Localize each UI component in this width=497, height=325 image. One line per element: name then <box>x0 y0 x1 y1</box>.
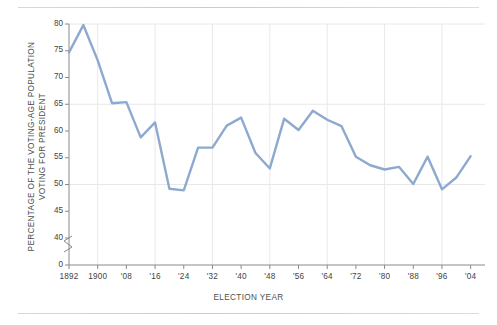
y-tick-label: 55 <box>37 152 63 161</box>
y-tick-label: 65 <box>37 99 63 108</box>
y-tick-label: 75 <box>37 45 63 54</box>
x-axis-title: ELECTION YEAR <box>0 293 497 302</box>
axis-ticks <box>65 24 471 269</box>
chart-figure: PERCENTAGE OF THE VOTING-AGE POPULATION … <box>0 0 497 325</box>
y-axis-title: PERCENTAGE OF THE VOTING-AGE POPULATION … <box>27 37 48 257</box>
y-tick-label: 50 <box>37 179 63 188</box>
x-tick-label: '04 <box>451 272 491 281</box>
y-tick-label: 40 <box>37 233 63 242</box>
y-tick-label: 0 <box>37 260 63 269</box>
y-tick-label: 80 <box>37 19 63 28</box>
y-tick-label: 45 <box>37 206 63 215</box>
y-axis-title-line1: PERCENTAGE OF THE VOTING-AGE POPULATION <box>27 42 36 252</box>
y-tick-label: 70 <box>37 72 63 81</box>
y-tick-label: 60 <box>37 126 63 135</box>
